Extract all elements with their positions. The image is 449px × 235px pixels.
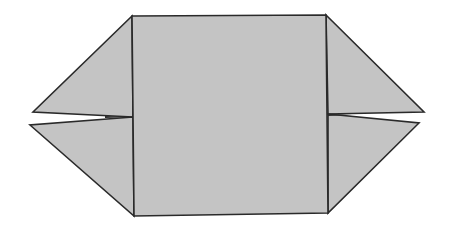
right-upper-flap bbox=[326, 15, 424, 114]
origami-diagram bbox=[0, 0, 449, 235]
left-lower-flap bbox=[30, 117, 134, 216]
right-lower-flap bbox=[328, 114, 419, 213]
left-upper-flap bbox=[33, 16, 133, 117]
center-square bbox=[132, 15, 328, 216]
diagram-svg bbox=[0, 0, 449, 235]
